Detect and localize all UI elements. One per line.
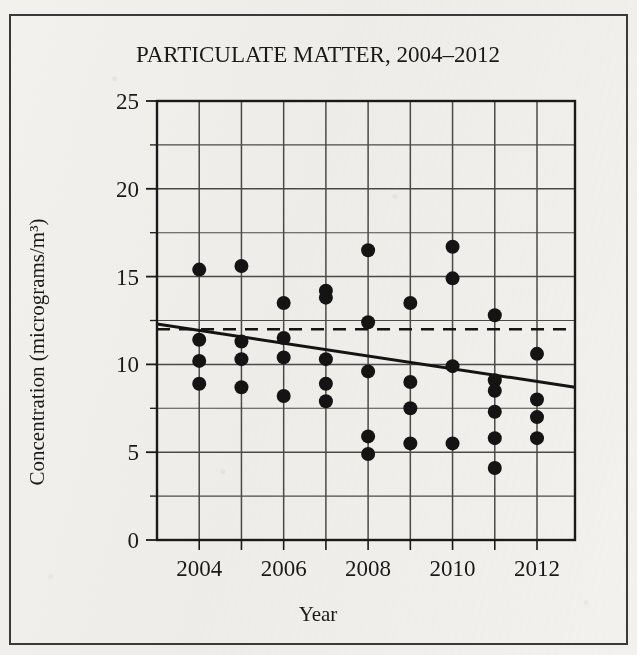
data-point [192,377,206,391]
y-axis-tick-label: 15 [116,265,139,290]
data-point [446,240,460,254]
y-axis-tick-label: 25 [116,89,139,114]
data-point [530,431,544,445]
x-axis-tick-labels: 20042006200820102012 [176,556,560,581]
data-point [192,263,206,277]
y-axis-tick-label: 20 [116,177,139,202]
x-axis-tick-label: 2008 [345,556,391,581]
data-point [530,410,544,424]
y-axis-tick-label: 5 [128,440,140,465]
data-point [403,401,417,415]
data-point [192,354,206,368]
data-point [234,380,248,394]
data-point [277,389,291,403]
x-axis-tick-label: 2012 [514,556,560,581]
data-point [277,350,291,364]
data-point [319,394,333,408]
data-point [530,347,544,361]
data-point [488,308,502,322]
data-point [530,393,544,407]
data-point [319,291,333,305]
data-point [488,431,502,445]
y-axis-tick-label: 0 [128,528,140,553]
data-point [277,296,291,310]
data-point [361,447,375,461]
data-point [361,243,375,257]
data-point [403,436,417,450]
data-point [361,429,375,443]
data-point [488,461,502,475]
data-point [361,364,375,378]
data-point [234,335,248,349]
axis-ticks [146,101,537,550]
y-axis-tick-labels: 0510152025 [116,89,139,553]
data-point [403,375,417,389]
data-point [446,359,460,373]
data-point [446,271,460,285]
data-point [319,352,333,366]
x-axis-tick-label: 2010 [430,556,476,581]
chart-title: PARTICULATE MATTER, 2004–2012 [136,42,500,67]
data-point [403,296,417,310]
data-point [234,352,248,366]
particulate-matter-scatter-chart: PARTICULATE MATTER, 2004–2012 Concentrat… [11,16,626,643]
x-axis-title: Year [299,602,338,626]
x-axis-tick-label: 2004 [176,556,223,581]
data-point [361,315,375,329]
data-point [234,259,248,273]
data-point [488,384,502,398]
y-axis-title: Concentration (micrograms/m³) [25,219,49,486]
data-point [277,331,291,345]
data-point [446,436,460,450]
data-point [192,333,206,347]
figure-frame: PARTICULATE MATTER, 2004–2012 Concentrat… [9,14,628,645]
x-axis-tick-label: 2006 [261,556,307,581]
data-point [319,377,333,391]
y-axis-tick-label: 10 [116,352,139,377]
data-point [488,405,502,419]
